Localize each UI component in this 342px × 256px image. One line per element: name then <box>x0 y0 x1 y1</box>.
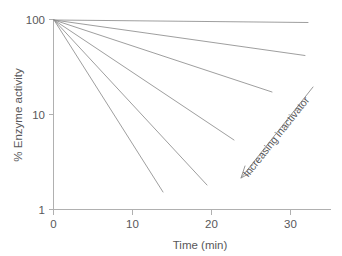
x-tick-label-10: 10 <box>126 218 139 230</box>
y-tick-marks <box>49 20 54 210</box>
chart-figure: 100 10 1 0 10 20 30 Time (min) % Enzyme … <box>0 0 342 256</box>
y-axis-title: % Enzyme activity <box>12 68 24 162</box>
y-tick-label-10: 10 <box>32 109 45 121</box>
x-tick-marks <box>54 210 291 215</box>
x-tick-label-0: 0 <box>50 218 56 230</box>
x-tick-label-20: 20 <box>205 218 218 230</box>
decay-line-5 <box>54 20 207 185</box>
decay-line-3 <box>54 20 272 92</box>
y-tick-labels: 100 10 1 <box>26 14 45 216</box>
decay-line-4 <box>54 20 234 140</box>
semilog-decay-plot: 100 10 1 0 10 20 30 Time (min) % Enzyme … <box>0 0 342 256</box>
x-tick-label-30: 30 <box>284 218 297 230</box>
decay-line-6 <box>54 20 163 192</box>
y-tick-label-1: 1 <box>39 204 45 216</box>
decay-line-2 <box>54 20 305 56</box>
decay-line-group <box>54 20 308 192</box>
y-tick-label-100: 100 <box>26 14 45 26</box>
x-axis-title: Time (min) <box>173 239 228 251</box>
decay-line-1 <box>54 20 308 23</box>
x-tick-labels: 0 10 20 30 <box>50 218 297 230</box>
annotation-label: Increasing inactivator <box>240 94 311 180</box>
